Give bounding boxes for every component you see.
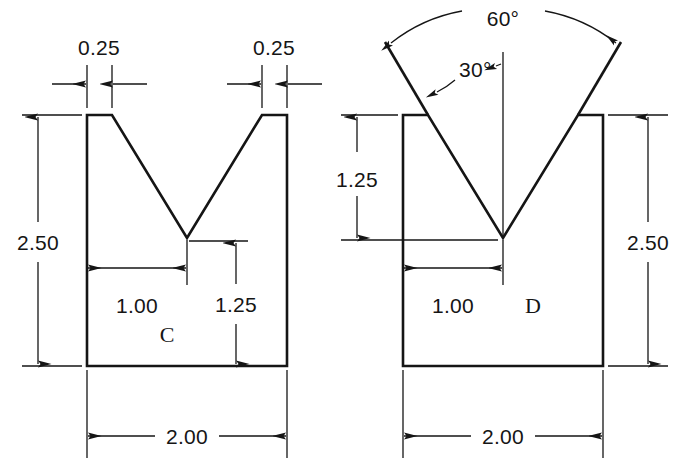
figure-d-group: 60° 30° 1.25 1.00 D 2.50 (336, 7, 669, 458)
dim-label-c-vertex-to-base: 1.25 (215, 293, 257, 316)
dim-label-c-height: 2.50 (17, 231, 59, 254)
engineering-drawing-canvas: 0.25 0.25 2.50 1.00 1.25 C (0, 0, 681, 462)
part-label-d: D (525, 293, 541, 318)
dim-label-c-groove-half-width: 1.00 (116, 294, 158, 317)
angle-arc-d-30-left (437, 80, 455, 92)
angle-arc-d-60-right (545, 11, 616, 43)
angle-arc-d-30-right (496, 64, 501, 66)
dim-label-c-width: 2.00 (166, 425, 208, 448)
angle-arc-d-60-left (391, 11, 462, 43)
dim-label-c-right-land: 0.25 (253, 36, 295, 59)
drawing-svg: 0.25 0.25 2.50 1.00 1.25 C (0, 0, 681, 462)
part-label-c: C (160, 322, 175, 347)
extension-flank-right-d (578, 42, 621, 115)
dim-label-d-width: 2.00 (482, 425, 524, 448)
dim-label-d-groove-half-width: 1.00 (432, 294, 474, 317)
dim-label-d-height: 2.50 (627, 231, 669, 254)
dim-label-c-left-land: 0.25 (78, 36, 120, 59)
extension-flank-left-d (385, 42, 428, 115)
figure-c-group: 0.25 0.25 2.50 1.00 1.25 C (17, 36, 322, 458)
dim-label-d-included-angle: 60° (487, 7, 520, 30)
dim-label-d-half-angle: 30° (459, 58, 492, 81)
dim-label-d-groove-depth: 1.25 (336, 168, 378, 191)
